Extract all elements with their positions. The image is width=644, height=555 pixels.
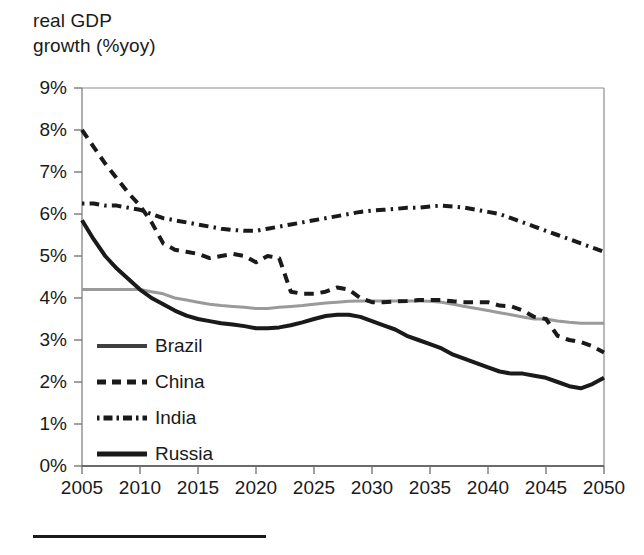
footer-rule: [33, 535, 266, 538]
chart-legend: Brazil China India Russia: [96, 328, 213, 472]
legend-label-china: China: [155, 371, 205, 393]
x-tick-label: 2035: [409, 477, 451, 499]
y-tick-label: 5%: [15, 245, 67, 267]
y-tick-label: 6%: [15, 203, 67, 225]
x-tick-label: 2045: [525, 477, 567, 499]
legend-label-russia: Russia: [155, 443, 213, 465]
legend-swatch-india: [96, 411, 148, 425]
x-tick-label: 2015: [177, 477, 219, 499]
x-tick-label: 2030: [351, 477, 393, 499]
y-tick-label: 1%: [15, 413, 67, 435]
y-tick-label: 2%: [15, 371, 67, 393]
legend-item-china[interactable]: China: [96, 364, 213, 400]
legend-swatch-china: [96, 375, 148, 389]
y-tick-label: 0%: [15, 455, 67, 477]
gdp-growth-chart: real GDPgrowth (%yoy) 0%1%2%3%4%5%6%7%8%…: [0, 0, 644, 555]
y-tick-label: 4%: [15, 287, 67, 309]
x-tick-label: 2025: [293, 477, 335, 499]
y-tick-label: 8%: [15, 119, 67, 141]
legend-item-russia[interactable]: Russia: [96, 436, 213, 472]
y-tick-label: 9%: [15, 77, 67, 99]
legend-item-brazil[interactable]: Brazil: [96, 328, 213, 364]
y-tick-label: 7%: [15, 161, 67, 183]
legend-label-india: India: [155, 407, 196, 429]
x-tick-label: 2040: [467, 477, 509, 499]
legend-label-brazil: Brazil: [155, 335, 203, 357]
y-tick-label: 3%: [15, 329, 67, 351]
legend-swatch-russia: [96, 447, 148, 461]
legend-swatch-brazil: [96, 339, 148, 353]
x-tick-label: 2010: [119, 477, 161, 499]
x-tick-label: 2020: [235, 477, 277, 499]
y-axis-ticks: [74, 88, 82, 466]
series-line-brazil: [82, 290, 604, 324]
x-tick-label: 2050: [583, 477, 625, 499]
series-line-china: [82, 130, 604, 353]
series-line-india: [82, 204, 604, 252]
x-tick-label: 2005: [61, 477, 103, 499]
legend-item-india[interactable]: India: [96, 400, 213, 436]
